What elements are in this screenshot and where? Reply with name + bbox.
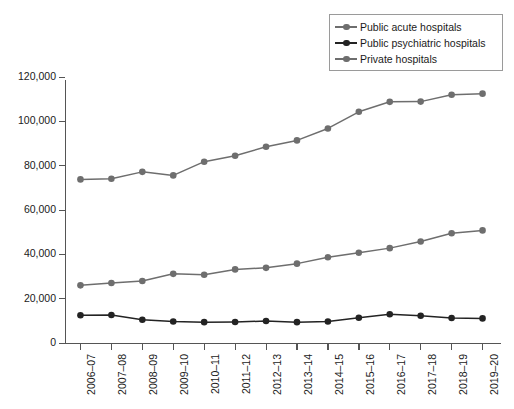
legend-item[interactable]: Private hospitals — [335, 51, 497, 67]
data-point — [232, 266, 239, 273]
data-series — [77, 90, 486, 182]
data-point — [77, 176, 84, 183]
data-point — [448, 91, 455, 98]
data-point — [479, 315, 486, 322]
legend-item-label: Public acute hospitals — [360, 21, 462, 33]
data-point — [294, 137, 301, 144]
legend-marker-icon — [335, 21, 357, 33]
legend-item[interactable]: Public psychiatric hospitals — [335, 35, 497, 51]
data-point — [294, 260, 301, 267]
data-point — [201, 271, 208, 278]
data-point — [232, 319, 239, 326]
data-series — [77, 227, 486, 289]
data-point — [479, 90, 486, 97]
data-point — [448, 230, 455, 237]
data-point — [386, 311, 393, 318]
data-point — [294, 319, 301, 326]
data-point — [170, 318, 177, 325]
data-point — [386, 245, 393, 252]
legend: Public acute hospitals Public psychiatri… — [329, 14, 503, 71]
data-point — [386, 99, 393, 106]
data-point — [325, 125, 332, 132]
data-series — [77, 311, 486, 326]
data-point — [201, 158, 208, 165]
data-point — [356, 314, 363, 321]
data-point — [263, 318, 270, 325]
data-point — [139, 278, 146, 285]
data-point — [201, 319, 208, 326]
data-point — [108, 280, 115, 287]
data-point — [417, 312, 424, 319]
data-point — [325, 318, 332, 325]
line-chart: 020,00040,00060,00080,000100,000120,000 … — [0, 0, 514, 409]
data-point — [108, 175, 115, 182]
legend-item-label: Public psychiatric hospitals — [360, 37, 485, 49]
data-point — [232, 152, 239, 159]
legend-item[interactable]: Public acute hospitals — [335, 19, 497, 35]
data-point — [356, 249, 363, 256]
data-point — [77, 282, 84, 289]
legend-item-label: Private hospitals — [360, 53, 437, 65]
series-line — [80, 94, 482, 180]
data-point — [417, 98, 424, 105]
data-point — [479, 227, 486, 234]
data-point — [263, 265, 270, 272]
data-point — [139, 169, 146, 176]
legend-marker-icon — [335, 53, 357, 65]
data-point — [77, 312, 84, 319]
data-point — [170, 172, 177, 179]
data-point — [170, 271, 177, 278]
legend-marker-icon — [335, 37, 357, 49]
data-point — [356, 109, 363, 116]
data-point — [325, 254, 332, 261]
data-point — [139, 316, 146, 323]
data-point — [108, 312, 115, 319]
data-point — [263, 144, 270, 151]
data-point — [448, 315, 455, 322]
data-point — [417, 238, 424, 245]
